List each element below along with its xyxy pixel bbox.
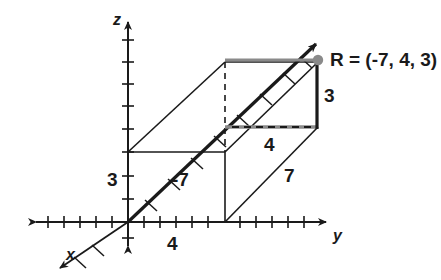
measure-label-z-height-axis: 3 <box>107 170 118 189</box>
coordinate-diagram <box>0 0 441 280</box>
measure-label-x-diagonal: 7 <box>284 166 295 185</box>
measure-label-y-base: 4 <box>167 234 178 253</box>
box-edge-left-slant <box>128 62 225 152</box>
box-group <box>128 62 318 222</box>
y-axis-label: y <box>333 228 342 244</box>
axes-and-box-svg <box>0 0 441 280</box>
x-axis <box>60 44 316 268</box>
measure-label-z-height-point: 3 <box>324 86 335 105</box>
z-axis <box>122 22 134 246</box>
point-r-label: R = (-7, 4, 3) <box>330 50 437 69</box>
z-axis-label: z <box>113 12 121 28</box>
x-axis-positive-ray <box>128 44 316 222</box>
measure-label-y-top: 4 <box>264 135 275 154</box>
x-axis-label: x <box>66 247 75 263</box>
point-r-marker <box>313 55 323 65</box>
measure-label-x-depth: -7 <box>172 170 189 189</box>
y-axis <box>36 216 326 228</box>
